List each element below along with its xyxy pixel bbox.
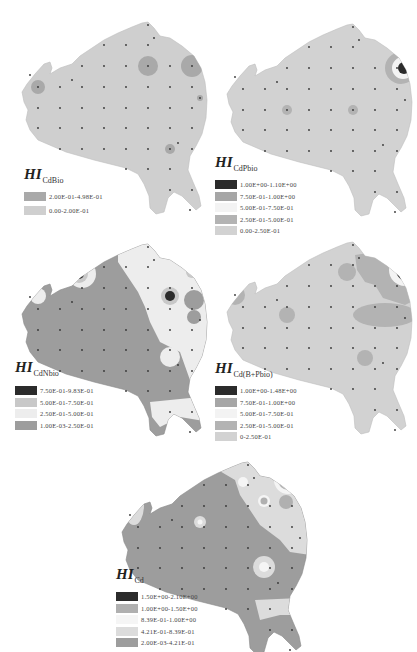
legend-entry: 2.50E-01-5.00E-01 — [15, 408, 94, 420]
legend-entry: 7.50E-01-1.00E+00 — [215, 191, 297, 203]
legend-entry: 7.50E-01-1.00E+00 — [215, 397, 297, 409]
legend-entry: 5.00E-01-7.50E-01 — [215, 408, 297, 420]
legend-entry: 5.00E-01-7.50E-01 — [15, 397, 94, 409]
legend-entry: 7.50E-01-9.83E-01 — [15, 385, 94, 397]
legend-cd: HICd 1.50E+00-2.10E+00 1.00E+00-1.50E+00… — [116, 566, 198, 649]
legend-entry: 2.50E-01-5.00E-01 — [215, 420, 297, 432]
legend-title: HICd — [116, 566, 198, 589]
legend-swatch — [24, 192, 46, 201]
legend-entry: 1.00E+00-1.50E+00 — [116, 603, 198, 615]
legend-entry: 4.21E-01-8.39E-01 — [116, 626, 198, 638]
legend-entry: 0.00-2.00E-01 — [24, 205, 103, 217]
legend-title: HICdBio — [24, 166, 103, 189]
map-panel-cdbio: HICdBio 2.00E-01-4.98E-01 0.00-2.00E-01 — [0, 0, 210, 220]
legend-entry: 2.00E-01-4.98E-01 — [24, 191, 103, 203]
legend-entry: 5.00E-01-7.50E-01 — [215, 202, 297, 214]
legend-entry: 2.00E-03-4.21E-01 — [116, 637, 198, 649]
legend-entry: 8.39E-01-1.00E+00 — [116, 614, 198, 626]
legend-title: HICdPbio — [215, 154, 297, 177]
map-panel-cd: HICd 1.50E+00-2.10E+00 1.00E+00-1.50E+00… — [100, 440, 320, 652]
map-panel-cdnbio: HICdNbio 7.50E-01-9.83E-01 5.00E-01-7.50… — [0, 222, 210, 437]
legend-cdbpbio: HICd(B+Pbio) 1.00E+00-1.48E+00 7.50E-01-… — [215, 360, 297, 443]
legend-cdbio: HICdBio 2.00E-01-4.98E-01 0.00-2.00E-01 — [24, 166, 103, 216]
legend-cdnbio: HICdNbio 7.50E-01-9.83E-01 5.00E-01-7.50… — [15, 359, 94, 431]
legend-swatch — [24, 206, 46, 215]
map-panel-cdpbio: HICdPbio 1.00E+00-1.10E+00 7.50E-01-1.00… — [205, 2, 417, 224]
map-panel-cdbpbio: HICd(B+Pbio) 1.00E+00-1.48E+00 7.50E-01-… — [205, 220, 417, 440]
legend-entry: 1.00E-03-2.50E-01 — [15, 420, 94, 432]
legend-entry: 1.00E+00-1.48E+00 — [215, 385, 297, 397]
legend-entry: 1.50E+00-2.10E+00 — [116, 591, 198, 603]
legend-entry: 1.00E+00-1.10E+00 — [215, 179, 297, 191]
legend-title: HICd(B+Pbio) — [215, 360, 297, 383]
legend-title: HICdNbio — [15, 359, 94, 382]
